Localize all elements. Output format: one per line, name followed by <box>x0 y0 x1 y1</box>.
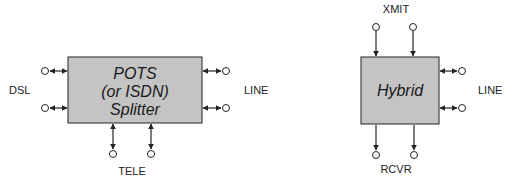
hybrid-title: Hybrid <box>377 82 424 99</box>
port-terminal-icon <box>373 152 380 159</box>
hybrid-rcvr-port-1 <box>373 125 380 159</box>
hybrid-line-label: LINE <box>478 84 502 96</box>
splitter-title-line-2: (or ISDN) <box>101 83 169 100</box>
splitter-title-line-1: POTS <box>113 65 157 82</box>
splitter-dsl-port-1 <box>42 68 68 75</box>
splitter-title-line-3: Splitter <box>110 101 160 118</box>
splitter-tele-port-2 <box>148 124 155 158</box>
splitter-dsl-port-2 <box>42 105 68 112</box>
splitter-line-port-1 <box>203 68 230 75</box>
splitter-tele-port-1 <box>110 124 117 158</box>
port-terminal-icon <box>411 152 418 159</box>
port-terminal-icon <box>110 151 117 158</box>
hybrid-block: Hybrid XMIT LINE RCVR <box>361 3 502 175</box>
port-terminal-icon <box>459 105 466 112</box>
hybrid-rcvr-label: RCVR <box>380 163 411 175</box>
hybrid-line-port-2 <box>440 105 466 112</box>
splitter-line-label: LINE <box>244 84 268 96</box>
hybrid-rcvr-port-2 <box>411 125 418 159</box>
port-terminal-icon <box>42 68 49 75</box>
port-terminal-icon <box>410 24 417 31</box>
hybrid-xmit-port-1 <box>373 24 380 57</box>
port-terminal-icon <box>148 151 155 158</box>
port-terminal-icon <box>223 105 230 112</box>
port-terminal-icon <box>373 24 380 31</box>
hybrid-xmit-label: XMIT <box>383 3 410 15</box>
splitter-tele-label: TELE <box>118 165 146 177</box>
hybrid-line-port-1 <box>440 68 466 75</box>
splitter-line-port-2 <box>203 105 230 112</box>
port-terminal-icon <box>42 105 49 112</box>
block-diagram: POTS (or ISDN) Splitter DSL LINE <box>0 0 513 183</box>
hybrid-xmit-port-2 <box>410 24 417 57</box>
splitter-block: POTS (or ISDN) Splitter DSL LINE <box>9 57 268 177</box>
splitter-dsl-label: DSL <box>9 84 30 96</box>
port-terminal-icon <box>223 68 230 75</box>
port-terminal-icon <box>459 68 466 75</box>
